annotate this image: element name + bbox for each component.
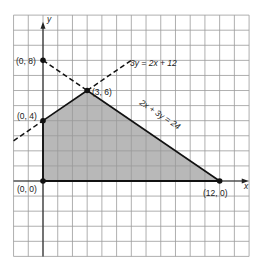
point-label-0-0: (0, 0): [17, 184, 37, 194]
linear-programming-graph: y x (0, 8) (0, 4) (3, 6) (0, 0) (12, 0) …: [0, 0, 260, 268]
point-label-0-8: (0, 8): [16, 56, 36, 66]
line-label-3y-2x-12: 3y = 2x + 12: [130, 58, 177, 68]
point-label-3-6: (3, 6): [92, 87, 112, 97]
point-label-12-0: (12, 0): [203, 188, 228, 198]
y-axis-label: y: [46, 14, 52, 24]
x-axis-label: x: [243, 181, 249, 191]
vertex-point: [40, 178, 46, 184]
vertex-point: [40, 58, 46, 64]
grid: [14, 15, 250, 256]
vertex-point: [217, 178, 223, 184]
vertex-point: [40, 118, 46, 124]
point-label-0-4: (0, 4): [17, 111, 37, 121]
vertex-point: [84, 88, 90, 94]
